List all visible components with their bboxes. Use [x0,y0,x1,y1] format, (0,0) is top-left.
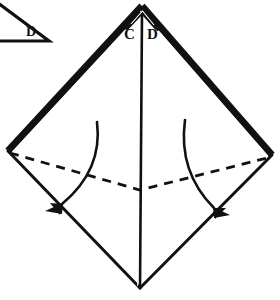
label-d: D [147,27,158,42]
origami-fold-diagram [0,0,280,300]
label-d-corner-triangle: D [26,25,36,39]
label-c: C [124,27,135,42]
corner-right-triangle [0,0,49,41]
left-fold-arrow [45,122,98,215]
center-vertical-crease [138,14,142,288]
